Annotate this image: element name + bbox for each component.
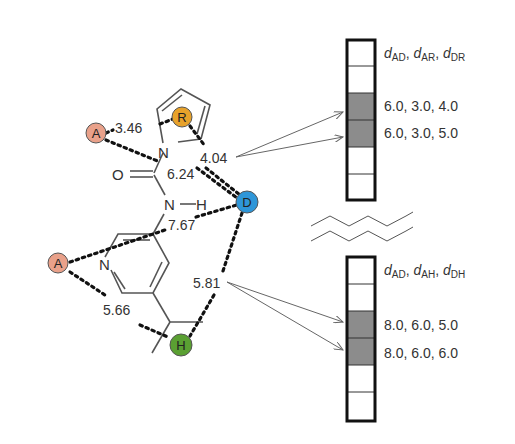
- arrows-top: [236, 112, 343, 157]
- pharmacophore-diagram: N O N H N 3.46 6.24 4.04 7.67 5.81 5.66 …: [0, 0, 515, 444]
- atom-o-carbonyl: O: [112, 166, 124, 183]
- svg-text:A: A: [54, 256, 63, 271]
- bin-column-top: [347, 40, 375, 200]
- svg-text:A: A: [92, 126, 101, 141]
- distance-a-r: 3.46: [115, 120, 142, 136]
- svg-text:D: D: [242, 195, 251, 210]
- bin-top-header: dAD, dAR, dDR: [384, 45, 465, 63]
- feature-a-top: A: [86, 123, 106, 143]
- bin-bottom-row-1: 8.0, 6.0, 5.0: [384, 317, 458, 333]
- feature-a-bottom: A: [48, 253, 68, 273]
- bin-column-bottom: [347, 257, 375, 421]
- axis-break-icon: [311, 212, 413, 241]
- atom-n-amide: N: [164, 196, 175, 213]
- feature-r: R: [172, 107, 192, 127]
- atom-n-pyrrole: N: [158, 144, 169, 161]
- arrows-bottom: [227, 282, 343, 350]
- bin-top-row-2: 6.0, 3.0, 5.0: [384, 125, 458, 141]
- distance-d-h: 5.81: [193, 275, 220, 291]
- bin-bottom-row-2: 8.0, 6.0, 6.0: [384, 345, 458, 361]
- distance-a-d-lower: 7.67: [168, 217, 195, 233]
- svg-text:R: R: [177, 110, 186, 125]
- atom-h-amide: H: [196, 196, 207, 213]
- feature-h: H: [170, 334, 192, 356]
- bin-top-row-1: 6.0, 3.0, 4.0: [384, 98, 458, 114]
- bin-bottom-header: dAD, dAH, dDH: [384, 262, 465, 280]
- distance-a-d: 6.24: [167, 166, 194, 182]
- distance-a-h: 5.66: [103, 302, 130, 318]
- distance-r-d: 4.04: [200, 150, 227, 166]
- atom-n-pyridine: N: [99, 256, 110, 273]
- feature-d: D: [236, 191, 258, 213]
- svg-text:H: H: [176, 338, 185, 353]
